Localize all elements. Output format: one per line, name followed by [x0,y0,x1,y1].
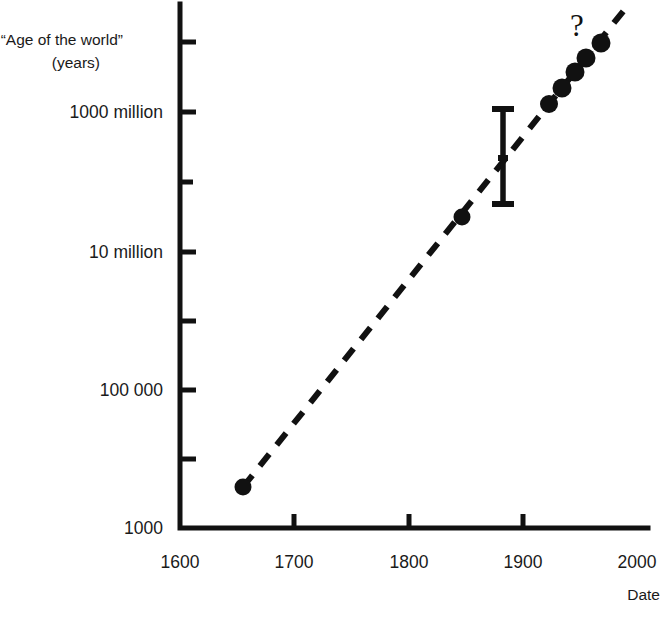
x-tick-label-1600: 1600 [161,552,200,572]
y-tick-label-1000-million: 1000 million [70,102,163,122]
x-tick-label-1900: 1900 [504,552,543,572]
axis-lines [180,4,648,528]
data-point [235,479,252,496]
data-point [592,34,611,53]
y-axis-title-line1: “Age of the world” [1,31,123,48]
data-point [553,79,572,98]
data-point [540,95,558,113]
x-tick-label-1800: 1800 [390,552,429,572]
y-axis-title-line2: (years) [52,54,100,71]
x-tick-label-2000: 2000 [618,552,657,572]
error-bar [492,108,514,205]
data-points [235,34,611,496]
data-point [577,49,596,68]
x-axis-title: Date [627,586,660,603]
y-tick-label-10-million: 10 million [89,242,163,262]
data-point [454,209,471,226]
question-mark-annotation: ? [570,8,584,43]
y-tick-label-100000: 100 000 [100,380,164,400]
y-tick-label-1000: 1000 [124,518,163,538]
x-tick-label-1700: 1700 [275,552,314,572]
chart-figure: “Age of the world” (years) 1000 million … [0,0,670,619]
